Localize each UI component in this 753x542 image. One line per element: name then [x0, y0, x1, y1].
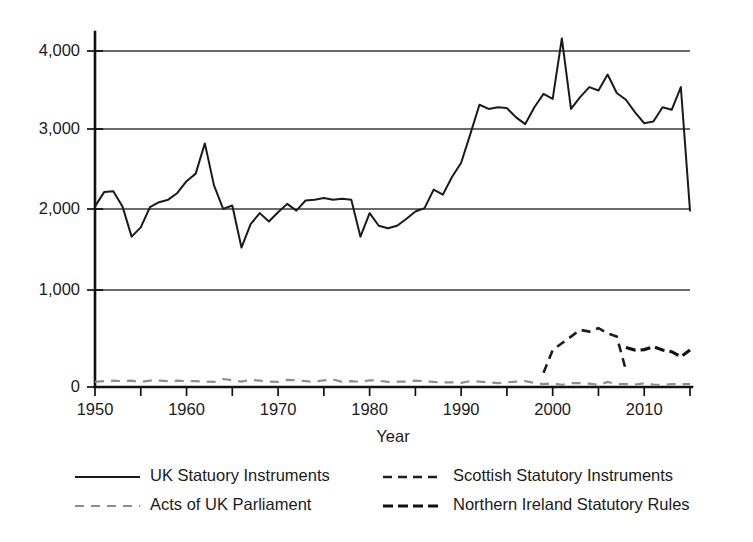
y-tick-label-1000: 1,000: [39, 280, 80, 298]
series-line-acts-of-uk-parliament: [95, 379, 690, 385]
x-axis-title: Year: [376, 427, 410, 445]
legend-label-northern-ireland-statutory-rules: Northern Ireland Statutory Rules: [453, 495, 690, 513]
x-tick-label-1990: 1990: [443, 400, 480, 418]
series-line-uk-statutory-instruments: [95, 38, 690, 247]
y-tick-label-2000: 2,000: [39, 199, 80, 217]
y-axis-labels: 0 1,000 2,000 3,000 4,000: [39, 41, 80, 395]
legend-label-uk-statutory-instruments: UK Statuory Instruments: [150, 466, 330, 484]
x-tick-label-2000: 2000: [534, 400, 571, 418]
x-axis-labels: 1950196019701980199020002010: [77, 400, 663, 418]
y-tick-label-0: 0: [71, 377, 80, 395]
chart-figure: 0 1,000 2,000 3,000 4,000 19501960197019…: [0, 0, 753, 542]
x-tick-label-1950: 1950: [77, 400, 114, 418]
line-chart-svg: 0 1,000 2,000 3,000 4,000 19501960197019…: [0, 0, 753, 542]
legend: UK Statuory Instruments Scottish Statuto…: [75, 466, 690, 513]
data-series: [95, 38, 690, 385]
y-tick-label-3000: 3,000: [39, 119, 80, 137]
x-axis-ticks: [95, 387, 690, 396]
legend-label-scottish-statutory-instruments: Scottish Statutory Instruments: [453, 466, 673, 484]
x-tick-label-1970: 1970: [260, 400, 297, 418]
legend-label-acts-of-uk-parliament: Acts of UK Parliament: [150, 495, 312, 513]
series-line-scottish-statutory-instruments: [544, 328, 626, 373]
x-tick-label-1960: 1960: [168, 400, 205, 418]
series-line-northern-ireland-statutory-rules: [626, 347, 690, 357]
y-tick-label-4000: 4,000: [39, 41, 80, 59]
x-tick-label-2010: 2010: [626, 400, 663, 418]
x-tick-label-1980: 1980: [351, 400, 388, 418]
